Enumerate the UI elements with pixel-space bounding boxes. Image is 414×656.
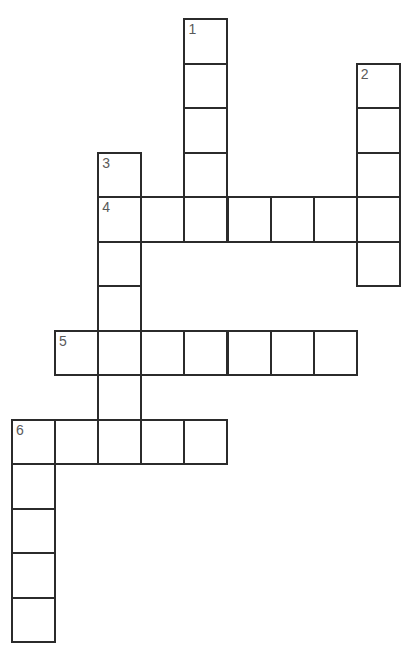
crossword-cell[interactable] bbox=[97, 241, 142, 288]
letter-input[interactable] bbox=[315, 332, 356, 375]
crossword-cell[interactable] bbox=[11, 597, 56, 644]
letter-input[interactable] bbox=[229, 332, 270, 375]
crossword-cell[interactable]: 4 bbox=[97, 196, 142, 243]
letter-input[interactable] bbox=[142, 332, 183, 375]
letter-input[interactable] bbox=[13, 510, 54, 553]
letter-input[interactable] bbox=[185, 154, 226, 197]
letter-input[interactable] bbox=[99, 198, 140, 241]
crossword-cell[interactable] bbox=[183, 196, 228, 243]
letter-input[interactable] bbox=[185, 332, 226, 375]
crossword-cell[interactable] bbox=[140, 419, 185, 466]
letter-input[interactable] bbox=[272, 332, 313, 375]
crossword-cell[interactable] bbox=[356, 152, 401, 199]
letter-input[interactable] bbox=[185, 20, 226, 63]
crossword-cell[interactable] bbox=[97, 374, 142, 421]
letter-input[interactable] bbox=[142, 198, 183, 241]
crossword-cell[interactable] bbox=[356, 241, 401, 288]
crossword-cell[interactable] bbox=[183, 152, 228, 199]
crossword-cell[interactable] bbox=[97, 419, 142, 466]
crossword-cell[interactable]: 3 bbox=[97, 152, 142, 199]
crossword-cell[interactable] bbox=[227, 196, 272, 243]
letter-input[interactable] bbox=[99, 421, 140, 464]
crossword-cell[interactable]: 2 bbox=[356, 63, 401, 110]
letter-input[interactable] bbox=[358, 109, 399, 152]
crossword-cell[interactable]: 6 bbox=[11, 419, 56, 466]
letter-input[interactable] bbox=[358, 243, 399, 286]
crossword-cell[interactable] bbox=[11, 552, 56, 599]
letter-input[interactable] bbox=[229, 198, 270, 241]
crossword-cell[interactable] bbox=[356, 107, 401, 154]
crossword-cell[interactable] bbox=[270, 196, 315, 243]
letter-input[interactable] bbox=[99, 243, 140, 286]
crossword-cell[interactable] bbox=[183, 330, 228, 377]
letter-input[interactable] bbox=[185, 65, 226, 108]
crossword-cell[interactable] bbox=[183, 419, 228, 466]
letter-input[interactable] bbox=[99, 287, 140, 330]
crossword-cell[interactable] bbox=[11, 508, 56, 555]
crossword-cell[interactable] bbox=[183, 107, 228, 154]
letter-input[interactable] bbox=[358, 154, 399, 197]
letter-input[interactable] bbox=[185, 421, 226, 464]
crossword-cell[interactable] bbox=[313, 196, 358, 243]
crossword-cell[interactable] bbox=[11, 463, 56, 510]
crossword-cell[interactable] bbox=[97, 330, 142, 377]
crossword-cell[interactable]: 1 bbox=[183, 18, 228, 65]
crossword-cell[interactable] bbox=[140, 330, 185, 377]
letter-input[interactable] bbox=[13, 599, 54, 642]
letter-input[interactable] bbox=[185, 109, 226, 152]
crossword-cell[interactable] bbox=[270, 330, 315, 377]
letter-input[interactable] bbox=[142, 421, 183, 464]
crossword-cell[interactable] bbox=[313, 330, 358, 377]
crossword-cell[interactable]: 5 bbox=[54, 330, 99, 377]
letter-input[interactable] bbox=[185, 198, 226, 241]
letter-input[interactable] bbox=[13, 421, 54, 464]
letter-input[interactable] bbox=[13, 554, 54, 597]
crossword-cell[interactable] bbox=[140, 196, 185, 243]
letter-input[interactable] bbox=[99, 332, 140, 375]
letter-input[interactable] bbox=[56, 421, 97, 464]
letter-input[interactable] bbox=[358, 65, 399, 108]
letter-input[interactable] bbox=[99, 154, 140, 197]
letter-input[interactable] bbox=[56, 332, 97, 375]
crossword-cell[interactable] bbox=[54, 419, 99, 466]
letter-input[interactable] bbox=[99, 376, 140, 419]
letter-input[interactable] bbox=[315, 198, 356, 241]
crossword-cell[interactable] bbox=[183, 63, 228, 110]
letter-input[interactable] bbox=[272, 198, 313, 241]
crossword-cell[interactable] bbox=[356, 196, 401, 243]
crossword-grid: 123456 bbox=[0, 0, 414, 656]
letter-input[interactable] bbox=[13, 465, 54, 508]
crossword-cell[interactable] bbox=[227, 330, 272, 377]
letter-input[interactable] bbox=[358, 198, 399, 241]
crossword-cell[interactable] bbox=[97, 285, 142, 332]
